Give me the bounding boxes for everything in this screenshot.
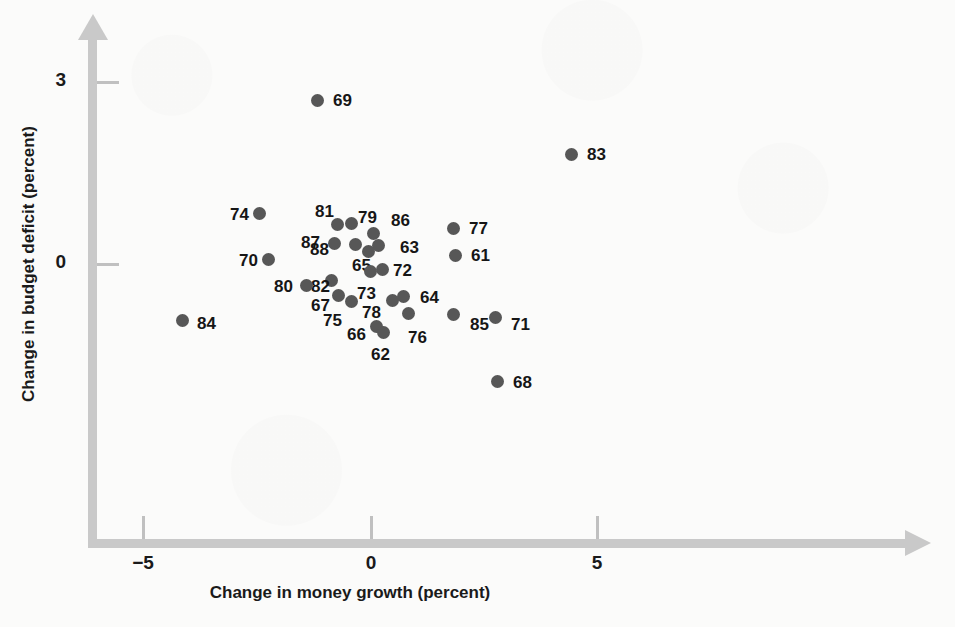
data-point-label: 86 — [391, 211, 410, 231]
data-point — [253, 207, 266, 220]
data-point-label: 62 — [371, 345, 390, 365]
data-point-label: 76 — [408, 328, 427, 348]
data-point-label: 68 — [513, 373, 532, 393]
scatter-chart: −50530 Change in money growth (percent) … — [0, 0, 955, 627]
data-point — [176, 314, 189, 327]
data-point — [311, 94, 324, 107]
y-tick-mark — [97, 263, 119, 266]
data-point-label: 64 — [420, 288, 439, 308]
x-axis-arrow-icon — [905, 530, 931, 556]
data-point — [447, 308, 460, 321]
x-axis-line — [88, 539, 910, 548]
data-point — [328, 237, 341, 250]
y-axis-line — [88, 36, 97, 548]
data-point — [489, 311, 502, 324]
data-point — [386, 294, 399, 307]
data-point-label: 72 — [393, 261, 412, 281]
data-point — [447, 222, 460, 235]
data-point — [262, 253, 275, 266]
data-point-label: 85 — [470, 315, 489, 335]
data-point-label: 84 — [197, 314, 216, 334]
data-point — [364, 265, 377, 278]
y-tick-label: 3 — [26, 69, 66, 91]
data-point-label: 82 — [311, 277, 330, 297]
data-point-label: 75 — [323, 311, 342, 331]
data-point — [491, 375, 504, 388]
data-point-label: 81 — [315, 202, 334, 222]
data-point-label: 80 — [274, 277, 293, 297]
x-tick-mark — [142, 516, 145, 539]
data-point-label: 71 — [511, 315, 530, 335]
data-point — [402, 307, 415, 320]
y-axis-title: Change in budget deficit (percent) — [19, 94, 39, 434]
x-tick-label: 0 — [341, 552, 401, 574]
data-point — [449, 249, 462, 262]
data-point-label: 77 — [469, 219, 488, 239]
x-tick-label: −5 — [113, 552, 173, 574]
x-tick-label: 5 — [567, 552, 627, 574]
data-point-label: 63 — [400, 238, 419, 258]
data-point-label: 73 — [357, 284, 376, 304]
data-point-label: 61 — [471, 246, 490, 266]
x-tick-mark — [370, 516, 373, 539]
data-point — [376, 263, 389, 276]
data-point-label: 70 — [239, 251, 258, 271]
y-tick-mark — [97, 81, 119, 84]
data-point-label: 88 — [310, 240, 329, 260]
x-tick-mark — [596, 516, 599, 539]
data-point-label: 69 — [333, 91, 352, 111]
data-point — [345, 295, 358, 308]
data-point-label: 83 — [587, 145, 606, 165]
data-point-label: 79 — [358, 208, 377, 228]
data-point — [349, 238, 362, 251]
data-point — [332, 289, 345, 302]
y-axis-arrow-icon — [78, 14, 108, 40]
x-axis-title: Change in money growth (percent) — [0, 583, 700, 603]
data-point — [300, 279, 313, 292]
data-point-label: 74 — [230, 205, 249, 225]
data-point — [377, 326, 390, 339]
data-point — [565, 148, 578, 161]
data-point-label: 66 — [347, 325, 366, 345]
data-point — [345, 217, 358, 230]
